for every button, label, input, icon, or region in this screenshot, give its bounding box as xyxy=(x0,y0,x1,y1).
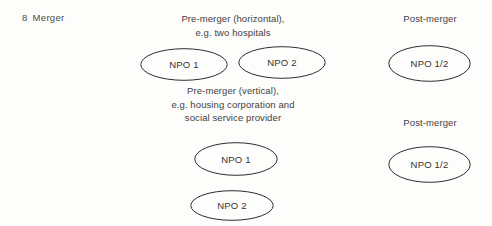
figure-title: Merger xyxy=(33,12,65,23)
figure-number: 8 xyxy=(22,12,28,23)
premerger-horizontal-line-1: Pre-merger (horizontal), xyxy=(128,12,338,26)
node-npo1-vertical-premerger: NPO 1 xyxy=(194,142,278,176)
postmerger-top-text: Post-merger xyxy=(370,12,490,26)
node-npo2-horizontal-premerger: NPO 2 xyxy=(238,46,326,79)
ellipse-shape xyxy=(388,45,471,82)
ellipse-shape xyxy=(194,142,278,176)
merger-diagram: 8Merger Pre-merger (horizontal), e.g. tw… xyxy=(0,0,492,226)
ellipse-shape xyxy=(238,46,326,79)
premerger-vertical-line-3: social service provider xyxy=(120,111,346,125)
premerger-vertical-line-1: Pre-merger (vertical), xyxy=(120,84,346,98)
figure-caption: 8Merger xyxy=(22,12,65,23)
node-npo1-horizontal-premerger: NPO 1 xyxy=(140,48,228,81)
premerger-vertical-line-2: e.g. housing corporation and xyxy=(120,98,346,112)
premerger-horizontal-label: Pre-merger (horizontal), e.g. two hospit… xyxy=(128,12,338,39)
postmerger-bottom-label: Post-merger xyxy=(370,116,490,130)
postmerger-top-label: Post-merger xyxy=(370,12,490,26)
node-npo12-vertical-postmerger: NPO 1/2 xyxy=(388,146,471,183)
node-npo12-horizontal-postmerger: NPO 1/2 xyxy=(388,45,471,82)
ellipse-shape xyxy=(140,48,228,81)
node-npo2-vertical-premerger: NPO 2 xyxy=(190,190,274,221)
premerger-horizontal-line-2: e.g. two hospitals xyxy=(128,26,338,40)
postmerger-bottom-text: Post-merger xyxy=(370,116,490,130)
ellipse-shape xyxy=(388,146,471,183)
premerger-vertical-label: Pre-merger (vertical), e.g. housing corp… xyxy=(120,84,346,125)
ellipse-shape xyxy=(190,190,274,221)
